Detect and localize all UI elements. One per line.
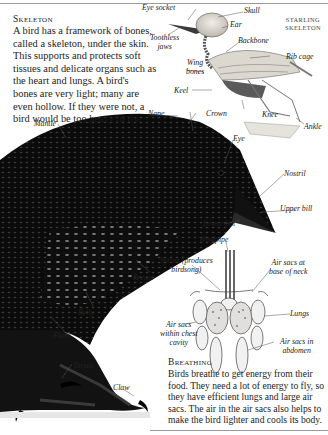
label-windpipe: Windpipe [199,235,228,244]
label-line: Syrinx (produces [160,256,213,265]
breathing-heading: Breathing [168,357,212,367]
label-line: bones [186,67,204,76]
label-wing-bones: Wing bones [186,58,204,76]
label-line: Air sacs at [269,258,308,267]
skeleton-line: even hollow. If they were not, a [13,101,163,114]
label-skull: Skull [244,6,260,15]
label-eye-socket: Eye socket [142,3,175,12]
label-line: Wing [186,58,204,67]
breathing-line: make the bird lighter and cools its body… [168,414,328,426]
skeleton-paragraph: A bird has a framework of bones, called … [13,25,163,126]
label-knee: Knee [262,110,278,119]
title-line: skeleton [278,24,328,32]
skeleton-line: called a skeleton, under the skin. [13,38,163,51]
label-claw: Claw [113,383,129,392]
skeleton-heading: Skeleton [13,14,53,24]
skeleton-line: bones are very light; many are [13,88,163,101]
label-line: jaws [150,42,179,51]
label-mantle: Mantle [34,119,56,128]
label-ear: Ear [230,20,242,29]
label-line: cavity [160,338,197,347]
label-line: base of neck [269,267,308,276]
breathing-line: Birds breathe to get energy from their [168,368,328,380]
label-lungs: Lungs [290,309,309,318]
label-keel: Keel [174,86,188,95]
label-nostril: Nostril [284,169,306,178]
label-line: Air sacs [160,320,197,329]
label-air-sacs-abdomen: Air sacs in abdomen [280,337,313,355]
label-rib-cage: Rib cage [286,52,314,61]
label-breast: Breast [133,273,153,282]
breathing-line: they have efficient lungs and large air [168,391,328,403]
label-toothless-jaws: Toothless jaws [150,33,179,51]
label-backbone: Backbone [238,36,269,45]
skeleton-line: the heart and lungs. A bird's [13,75,163,88]
label-ankle: Ankle [304,122,322,131]
label-air-sacs-chest: Air sacs within chest cavity [160,320,197,347]
label-nape: Nape [148,109,164,118]
label-eye: Eye [233,134,245,143]
label-crown: Crown [206,109,227,118]
label-line: abdomen [280,346,313,355]
label-flank: Flank [53,331,71,340]
skeleton-line: This supports and protects soft [13,50,163,63]
label-line: Toothless [150,33,179,42]
label-line: Air sacs in [280,337,313,346]
skeleton-line: A bird has a framework of bones, [13,25,163,38]
label-belly: Belly [78,308,94,317]
breathing-line: food. They need a lot of energy to fly, … [168,380,328,392]
label-tarsus: Tarsus [73,361,94,370]
label-line: within chest [160,329,197,338]
skeleton-line: tissues and delicate organs such as [13,63,163,76]
label-syrinx: Syrinx (produces birdsong) [160,256,213,274]
label-air-sacs-neck: Air sacs at base of neck [269,258,308,276]
starling-skeleton-title: Starling skeleton [278,16,328,32]
label-lower-bill: Lower bill [203,219,235,228]
label-upper-bill: Upper bill [280,204,312,213]
title-line: Starling [278,16,328,24]
label-line: birdsong) [160,265,213,274]
breathing-paragraph: Birds breathe to get energy from their f… [168,368,328,426]
breathing-line: sacs. The air in the air sacs also helps… [168,403,328,415]
